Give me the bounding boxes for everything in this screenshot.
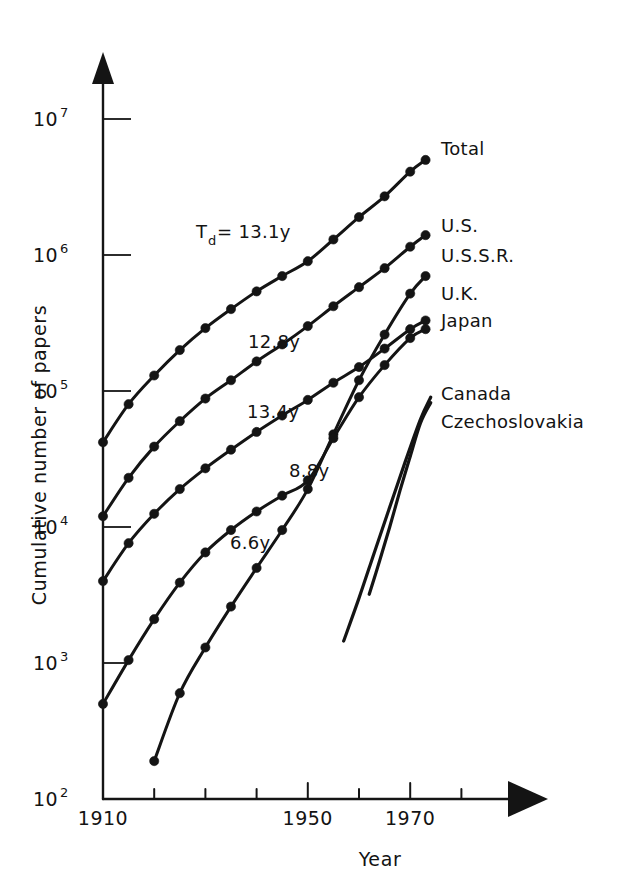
annotation-value: 8.8y [289, 460, 330, 481]
data-point [421, 325, 430, 334]
data-point [278, 271, 287, 280]
data-point [406, 333, 415, 342]
data-point [175, 345, 184, 354]
y-tick-label-10e3: 103 [33, 649, 68, 674]
data-point [252, 357, 261, 366]
data-point [354, 376, 363, 385]
data-point [329, 235, 338, 244]
data-point [150, 509, 159, 518]
x-axis-arrowhead [508, 781, 548, 817]
data-point [150, 615, 159, 624]
y-tick-exponent: 2 [60, 785, 68, 800]
series-label-canada: Canada [441, 383, 511, 404]
x-axis-title: Year [358, 848, 402, 870]
series-label-u-k: U.K. [441, 283, 479, 304]
x-tick-label-group: 191019501970 [78, 807, 436, 829]
cumulative-papers-log-chart: 102103104105106107 191019501970 Cumulati… [0, 0, 627, 889]
series-label-japan: Japan [440, 310, 493, 331]
series-path [369, 403, 430, 595]
data-point [175, 578, 184, 587]
x-tick-label-1970: 1970 [385, 807, 435, 829]
series-label-total: Total [440, 138, 485, 159]
data-point [406, 289, 415, 298]
data-point [354, 283, 363, 292]
data-point [354, 362, 363, 371]
figure-root: 102103104105106107 191019501970 Cumulati… [0, 0, 627, 889]
y-tick-mantissa: 10 [33, 788, 58, 810]
y-tick-exponent: 6 [60, 241, 68, 256]
series-path [103, 160, 426, 442]
data-point [421, 316, 430, 325]
data-point [124, 539, 133, 548]
data-point [278, 491, 287, 500]
x-tick-label-1910: 1910 [78, 807, 128, 829]
data-point [201, 548, 210, 557]
data-point [201, 324, 210, 333]
data-point [406, 167, 415, 176]
data-point [226, 445, 235, 454]
y-tick-mantissa: 10 [33, 108, 58, 130]
annotation-td-total: Td = 13.1y [195, 221, 291, 248]
data-point [354, 393, 363, 402]
data-point [201, 394, 210, 403]
data-point [303, 322, 312, 331]
data-point [406, 325, 415, 334]
x-tick-group [103, 783, 461, 799]
data-point [329, 434, 338, 443]
y-tick-exponent: 4 [60, 513, 68, 528]
y-axis-arrowhead [92, 52, 114, 84]
data-point [252, 563, 261, 572]
annotation-value: 6.6y [230, 532, 271, 553]
y-tick-exponent: 5 [60, 377, 68, 392]
data-point [303, 484, 312, 493]
data-point [354, 212, 363, 221]
annotation-subscript: d [208, 233, 216, 248]
data-point [226, 376, 235, 385]
data-point [150, 756, 159, 765]
data-point [421, 155, 430, 164]
data-point [329, 378, 338, 387]
data-point [380, 344, 389, 353]
data-point [226, 305, 235, 314]
series-label-u-s-s-r: U.S.S.R. [441, 245, 514, 266]
data-point [252, 287, 261, 296]
data-point [421, 271, 430, 280]
data-point [175, 689, 184, 698]
data-point [201, 464, 210, 473]
y-axis-title: Cumulative number of papers [28, 305, 50, 605]
data-point [329, 302, 338, 311]
annotation-value: = 13.1y [217, 221, 291, 242]
data-point [252, 427, 261, 436]
data-point [303, 395, 312, 404]
series-u-s [98, 231, 430, 521]
annotation-td-ussr: 8.8y [289, 460, 330, 481]
data-point [252, 507, 261, 516]
data-point [226, 602, 235, 611]
y-tick-mantissa: 10 [33, 652, 58, 674]
axes-group [92, 52, 548, 817]
data-point [150, 442, 159, 451]
plot-area [98, 155, 430, 765]
data-point [380, 330, 389, 339]
annotation-td-us: 12.8y [248, 331, 300, 352]
annotation-symbol: T [195, 221, 208, 242]
data-point [380, 192, 389, 201]
series-czechoslovakia [369, 403, 430, 595]
annotation-td-japan: 6.6y [230, 532, 271, 553]
data-point [175, 417, 184, 426]
data-point [150, 371, 159, 380]
annotation-value: 12.8y [248, 331, 300, 352]
y-tick-mantissa: 10 [33, 244, 58, 266]
data-point [303, 257, 312, 266]
series-label-czechoslovakia: Czechoslovakia [441, 411, 584, 432]
y-tick-exponent: 7 [60, 105, 68, 120]
data-point [124, 400, 133, 409]
annotation-td-uk: 13.4y [247, 401, 299, 422]
data-point [201, 643, 210, 652]
data-point [124, 473, 133, 482]
data-point [278, 525, 287, 534]
y-tick-label-10e6: 106 [33, 241, 68, 266]
series-label-group: TotalU.S.U.S.S.R.U.K.JapanCanadaCzechosl… [440, 138, 584, 432]
annotation-group: Td = 13.1y12.8y13.4y8.8y6.6y [195, 221, 330, 553]
data-point [380, 264, 389, 273]
